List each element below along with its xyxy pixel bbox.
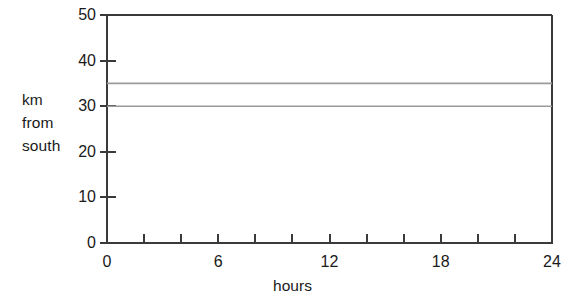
y-tick-label-1: 10: [48, 188, 96, 206]
y-axis-title: km from south: [22, 88, 84, 157]
y-tick-label-4: 40: [48, 52, 96, 70]
x-axis-title: hours: [0, 277, 585, 295]
x-tick-label-1: 6: [214, 253, 223, 271]
x-tick-label-2: 12: [321, 253, 339, 271]
data-series-lines: [107, 83, 552, 106]
chart-figure: 01020304050 06121824 km from south hours: [0, 0, 585, 304]
x-tick-label-3: 18: [432, 253, 450, 271]
x-tick-label-0: 0: [103, 253, 112, 271]
y-tick-label-0: 0: [48, 234, 96, 252]
plot-frame: [107, 15, 552, 243]
x-tick-label-4: 24: [543, 253, 561, 271]
y-axis-title-line-2: from: [22, 111, 84, 134]
y-tick-label-5: 50: [48, 6, 96, 24]
y-axis-title-line-1: km: [22, 88, 84, 111]
y-axis-title-line-3: south: [22, 134, 84, 157]
